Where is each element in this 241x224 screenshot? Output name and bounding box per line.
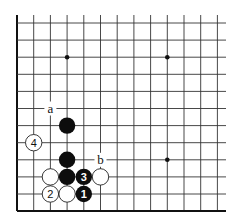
point-label-text: a <box>48 101 54 116</box>
point-label-b: b <box>95 152 107 167</box>
black-stone-icon <box>59 169 75 185</box>
white-stone-move-2: 2 <box>42 186 58 202</box>
black-stone <box>59 152 75 168</box>
move-number: 3 <box>81 171 87 183</box>
point-label-text: b <box>97 152 104 167</box>
star-point <box>165 55 170 60</box>
point-label-a: a <box>44 101 56 116</box>
white-stone-icon <box>92 169 108 185</box>
point-labels: ab <box>44 101 106 167</box>
move-number: 4 <box>31 137 37 149</box>
black-stone <box>59 169 75 185</box>
black-stone-icon <box>59 152 75 168</box>
black-stone-icon <box>59 117 75 133</box>
white-stone <box>92 169 108 185</box>
black-stone <box>59 117 75 133</box>
white-stone <box>59 186 75 202</box>
star-point <box>165 158 170 163</box>
white-stone <box>42 169 58 185</box>
move-number: 2 <box>47 188 53 200</box>
move-number: 1 <box>81 188 87 200</box>
go-board: ab 4321 <box>0 0 241 224</box>
star-point <box>65 55 70 60</box>
white-stone-move-4: 4 <box>26 135 42 151</box>
white-stone-icon <box>42 169 58 185</box>
white-stone-icon <box>59 186 75 202</box>
black-stone-move-1: 1 <box>76 186 92 202</box>
black-stone-move-3: 3 <box>76 169 92 185</box>
